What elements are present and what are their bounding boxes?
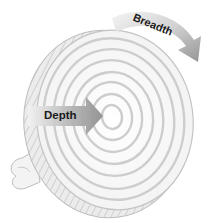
depth-breadth-diagram: Depth Breadth <box>0 0 209 223</box>
disc-illustration <box>0 0 209 223</box>
depth-label: Depth <box>44 109 77 121</box>
